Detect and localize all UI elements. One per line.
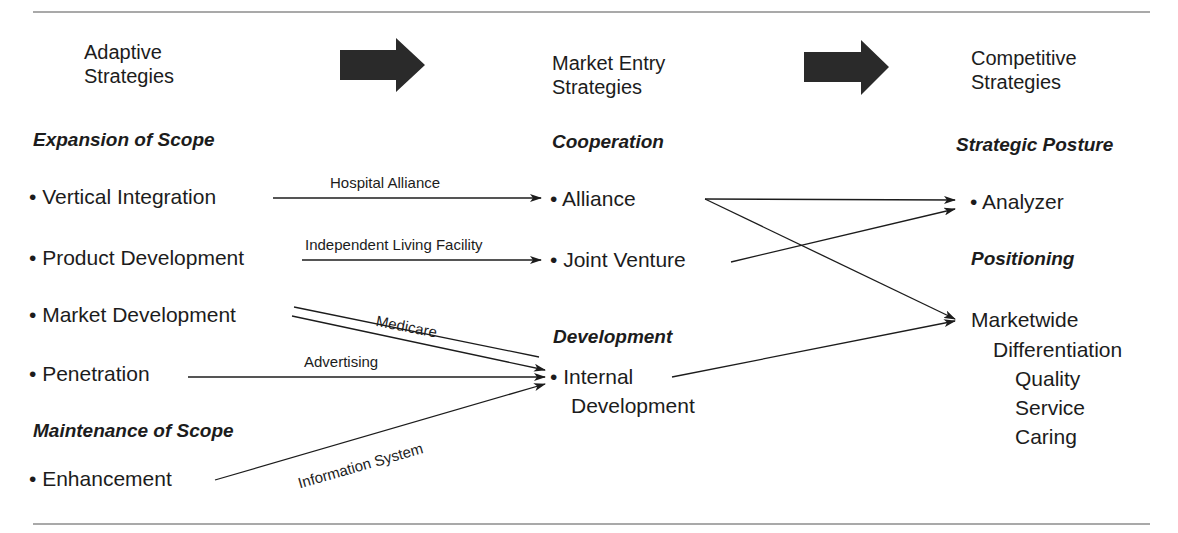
heading-cooperation: Cooperation (552, 131, 664, 153)
node-differentiation: Differentiation (993, 338, 1122, 362)
column-title-competitive: CompetitiveStrategies (971, 46, 1077, 94)
heading-positioning: Positioning (971, 248, 1074, 270)
edge-alliance-analyzer (705, 199, 955, 200)
node-enhancement: • Enhancement (29, 467, 172, 491)
node-marketwide: Marketwide (971, 308, 1078, 332)
block-arrow-icon (804, 40, 889, 95)
heading-strategic-posture: Strategic Posture (956, 134, 1113, 156)
node-vertical-integration: • Vertical Integration (29, 185, 216, 209)
edge-label-advertising: Advertising (304, 353, 378, 370)
edge-label-hospital-alliance: Hospital Alliance (330, 174, 440, 191)
heading-development: Development (553, 326, 672, 348)
edge-joint-analyzer (731, 209, 955, 262)
column-title-adaptive: AdaptiveStrategies (84, 40, 174, 88)
node-product-development: • Product Development (29, 246, 244, 270)
node-quality: Quality (1015, 367, 1080, 391)
column-title-market-entry: Market EntryStrategies (552, 51, 665, 99)
node-joint-venture: • Joint Venture (550, 248, 686, 272)
heading-maintenance-of-scope: Maintenance of Scope (33, 420, 234, 442)
node-market-development: • Market Development (29, 303, 236, 327)
node-internal-development-line2: Development (571, 394, 695, 418)
node-service: Service (1015, 396, 1085, 420)
edge-label-independent-living: Independent Living Facility (305, 236, 483, 253)
node-caring: Caring (1015, 425, 1077, 449)
node-alliance: • Alliance (550, 187, 636, 211)
heading-expansion-of-scope: Expansion of Scope (33, 129, 215, 151)
edge-internal-marketwide (672, 321, 955, 377)
node-analyzer: • Analyzer (970, 190, 1064, 214)
node-internal-development: • Internal (550, 365, 633, 389)
block-arrow-icon (340, 38, 425, 92)
node-penetration: • Penetration (29, 362, 150, 386)
